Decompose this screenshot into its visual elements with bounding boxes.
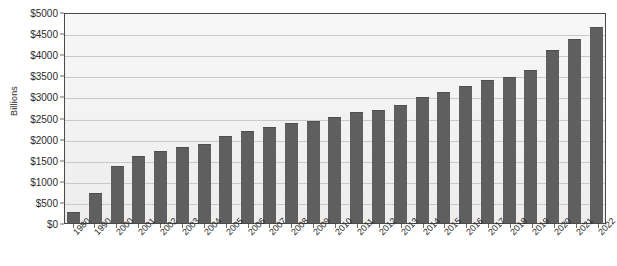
y-tick-label: $4000 <box>0 50 58 61</box>
y-tick-label: $5000 <box>0 8 58 19</box>
bar <box>285 123 298 223</box>
y-tick-label: $3000 <box>0 92 58 103</box>
bar <box>459 86 472 223</box>
bar <box>219 136 232 223</box>
bar <box>546 50 559 223</box>
bar <box>524 70 537 223</box>
y-tick-label: $1500 <box>0 155 58 166</box>
bar <box>372 110 385 223</box>
y-tick-label: $4500 <box>0 29 58 40</box>
bar <box>437 92 450 223</box>
y-axis-tick-labels: $5000$4500$4000$3500$3000$2500$2000$1500… <box>0 13 58 224</box>
bar <box>263 127 276 223</box>
plot-area <box>64 13 606 224</box>
y-tick-label: $3500 <box>0 71 58 82</box>
bar <box>176 147 189 223</box>
y-tick-label: $2000 <box>0 134 58 145</box>
bar <box>503 77 516 223</box>
bar <box>198 144 211 223</box>
bar <box>328 117 341 223</box>
bar <box>111 166 124 223</box>
bar <box>590 27 603 223</box>
y-tick-label: $2500 <box>0 113 58 124</box>
bar <box>350 112 363 223</box>
y-tick-label: $500 <box>0 197 58 208</box>
y-tick-label: $1000 <box>0 176 58 187</box>
bar <box>568 39 581 223</box>
y-tick-label: $0 <box>0 219 58 230</box>
bar <box>89 193 102 223</box>
bar <box>132 156 145 223</box>
bar <box>241 131 254 223</box>
bar <box>394 105 407 223</box>
bar <box>307 121 320 223</box>
bar <box>481 80 494 223</box>
bar-series <box>65 14 605 223</box>
x-axis-tick-labels: 1980199020002001200220032004200520062007… <box>64 224 606 266</box>
bar <box>416 97 429 223</box>
bar <box>154 151 167 223</box>
